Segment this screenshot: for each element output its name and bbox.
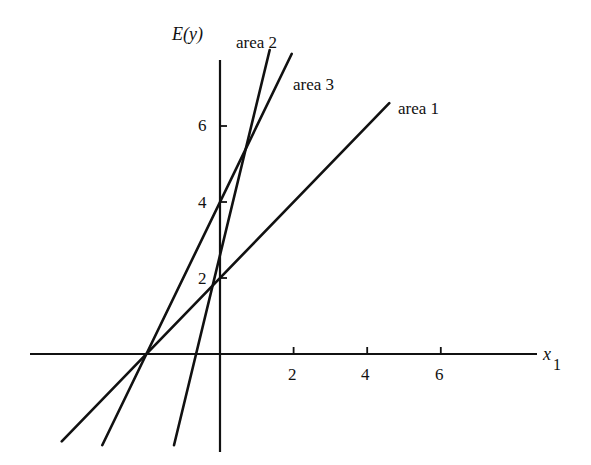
series-line-area-3 — [102, 54, 292, 445]
y-tick-label-4: 4 — [198, 193, 207, 212]
ticks — [220, 126, 441, 354]
y-axis-label: E(y) — [171, 24, 203, 45]
x-tick-label-2: 2 — [288, 365, 297, 384]
series-line-area-1 — [62, 103, 390, 441]
x-tick-label-4: 4 — [361, 365, 370, 384]
axes — [30, 60, 537, 452]
y-tick-label-6: 6 — [198, 116, 207, 135]
line-chart: E(y) x1 2 4 6 2 4 6 area 1 area 2 area 3 — [0, 0, 591, 465]
series-label-area-3: area 3 — [293, 75, 334, 94]
y-tick-label-2: 2 — [198, 269, 207, 288]
series-label-area-2: area 2 — [236, 33, 277, 52]
x-tick-label-6: 6 — [435, 365, 444, 384]
series-line-area-2 — [174, 50, 270, 445]
x-axis-label: x1 — [542, 344, 561, 373]
series-label-area-1: area 1 — [398, 99, 439, 118]
x-axis-label-subscript: 1 — [553, 356, 561, 373]
series-lines — [62, 50, 390, 445]
